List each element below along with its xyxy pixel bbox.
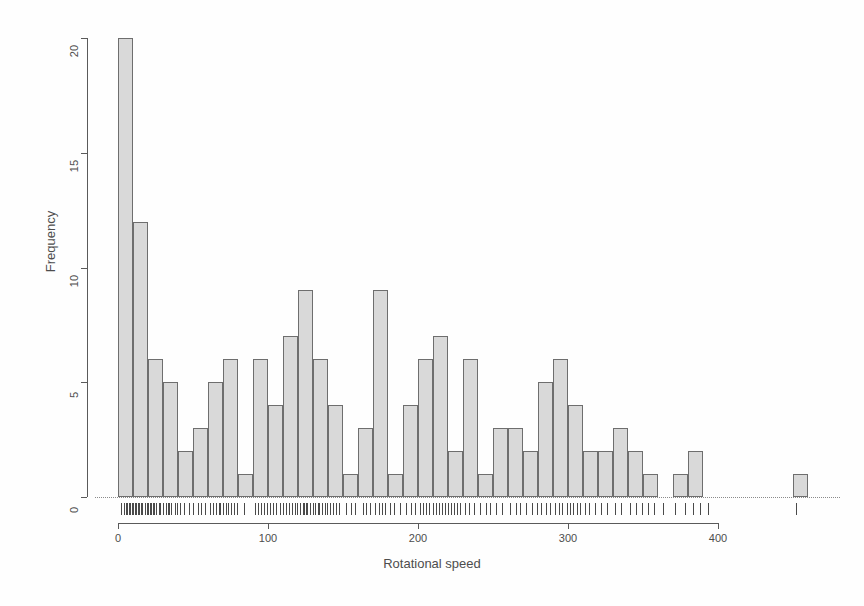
rug-tick (541, 503, 542, 515)
zero-baseline (95, 497, 840, 498)
x-tick-100 (268, 523, 269, 529)
rug-tick (366, 503, 367, 515)
histogram-bar (268, 405, 283, 497)
rug-tick (163, 503, 164, 515)
histogram-figure: 05101520 Frequency 0100200300400 Rotatio… (0, 0, 864, 606)
rug-tick (261, 503, 262, 515)
rug-tick (310, 503, 311, 515)
x-tick-label-0: 0 (98, 532, 138, 544)
histogram-bar (283, 336, 298, 497)
y-axis-line (87, 38, 88, 497)
rug-tick (693, 503, 694, 515)
rug-tick (654, 503, 655, 515)
rug-tick (685, 503, 686, 515)
rug-tick (480, 503, 481, 515)
histogram-bar (388, 474, 403, 497)
histogram-bar (148, 359, 163, 497)
histogram-bar (643, 474, 658, 497)
rug-tick (642, 503, 643, 515)
rug-tick (433, 503, 434, 515)
rug-tick (180, 503, 181, 515)
rug-tick (708, 503, 709, 515)
rug-tick (516, 503, 517, 515)
rug-tick (577, 503, 578, 515)
rug-tick (486, 503, 487, 515)
histogram-bar (628, 451, 643, 497)
rug-tick (289, 503, 290, 515)
rug-tick (400, 503, 401, 515)
rug-tick (258, 503, 259, 515)
rug-tick (520, 503, 521, 515)
rug-tick (264, 503, 265, 515)
rug-tick (796, 503, 797, 515)
rug-tick (457, 503, 458, 515)
rug-tick (351, 503, 352, 515)
rug-tick (537, 503, 538, 515)
rug-tick (406, 503, 407, 515)
histogram-bar (358, 428, 373, 497)
x-tick-label-100: 100 (248, 532, 288, 544)
rug-tick (327, 503, 328, 515)
histogram-bar (433, 336, 448, 497)
plot-area: 05101520 Frequency 0100200300400 Rotatio… (0, 0, 864, 606)
histogram-bar (403, 405, 418, 497)
rug-tick (231, 503, 232, 515)
rug-tick (363, 503, 364, 515)
histogram-bar (343, 474, 358, 497)
rug-tick (193, 503, 194, 515)
rug-tick (385, 503, 386, 515)
rug-tick (490, 503, 491, 515)
rug-tick (589, 503, 590, 515)
rug-tick (454, 503, 455, 515)
rug-tick (675, 503, 676, 515)
histogram-bar (313, 359, 328, 497)
rug-tick (573, 503, 574, 515)
rug-tick (607, 503, 608, 515)
rug-tick (171, 503, 172, 515)
rug-tick (469, 503, 470, 515)
histogram-bar (673, 474, 688, 497)
histogram-bar (478, 474, 493, 497)
rug-tick (390, 503, 391, 515)
rug-tick (382, 503, 383, 515)
x-tick-200 (418, 523, 419, 529)
histogram-bar (568, 405, 583, 497)
x-tick-label-200: 200 (398, 532, 438, 544)
rug-tick (276, 503, 277, 515)
rug-tick (283, 503, 284, 515)
rug-tick (267, 503, 268, 515)
histogram-bar (253, 359, 268, 497)
y-tick-10 (81, 268, 87, 269)
rug-tick (286, 503, 287, 515)
rug-tick (201, 503, 202, 515)
rug-tick (595, 503, 596, 515)
rug-tick (330, 503, 331, 515)
y-tick-label-0: 0 (68, 495, 80, 525)
histogram-bar (238, 474, 253, 497)
y-tick-15 (81, 153, 87, 154)
rug-tick (615, 503, 616, 515)
rug-tick (237, 503, 238, 515)
rug-tick (570, 503, 571, 515)
rug-tick (550, 503, 551, 515)
y-tick-5 (81, 382, 87, 383)
rug-tick (228, 503, 229, 515)
rug-tick (322, 503, 323, 515)
rug-tick (465, 503, 466, 515)
rug-tick (220, 503, 221, 515)
histogram-bar (418, 359, 433, 497)
rug-tick (460, 503, 461, 515)
rug-tick (336, 503, 337, 515)
y-tick-label-10: 10 (68, 266, 80, 296)
x-tick-label-300: 300 (548, 532, 588, 544)
rug-tick (585, 503, 586, 515)
rug-tick (333, 503, 334, 515)
histogram-bar (133, 222, 148, 497)
rug-tick (648, 503, 649, 515)
rug-tick (189, 503, 190, 515)
histogram-bar (613, 428, 628, 497)
rug-tick (474, 503, 475, 515)
y-axis-title: Frequency (43, 182, 58, 302)
rug-tick (636, 503, 637, 515)
rug-tick (532, 503, 533, 515)
